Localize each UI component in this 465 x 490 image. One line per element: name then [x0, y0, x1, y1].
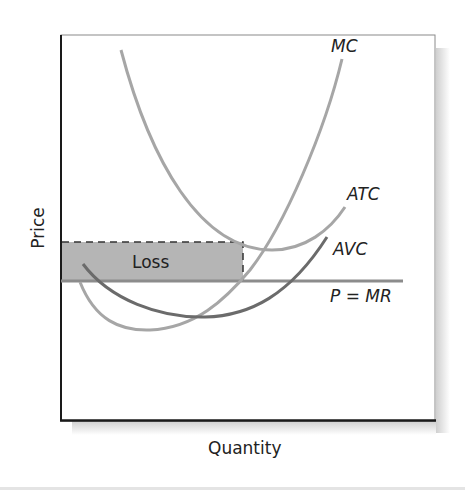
chart-canvas [0, 0, 465, 490]
atc-label: ATC [347, 184, 380, 204]
y-axis-title: Price [28, 207, 48, 248]
chart-figure: MC ATC AVC P = MR Loss Quantity Price [0, 0, 465, 490]
x-axis-title: Quantity [208, 438, 281, 458]
price-mr-label: P = MR [330, 286, 392, 306]
avc-label: AVC [333, 239, 367, 259]
frame-shadow-bottom [72, 421, 436, 435]
frame-shadow-right [436, 48, 450, 433]
plot-area [61, 35, 435, 421]
loss-label: Loss [132, 252, 169, 272]
mc-label: MC [331, 36, 358, 56]
